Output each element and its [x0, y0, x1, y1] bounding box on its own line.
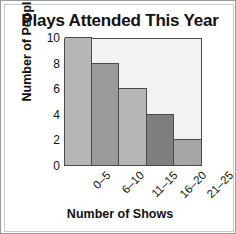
x-axis-tick-label: 0–5 [90, 169, 112, 191]
x-axis-tick-label: 16–20 [177, 169, 208, 200]
chart-title: Plays Attended This Year [5, 11, 235, 31]
y-axis-tick-label: 10 [40, 32, 60, 44]
y-axis-tick-label: 0 [40, 160, 60, 172]
y-axis-tick-label: 8 [40, 58, 60, 70]
y-axis-tick-label: 6 [40, 83, 60, 95]
x-axis-tick-label: 21–25 [205, 169, 236, 200]
y-axis-tick-labels: 0246810 [38, 38, 60, 166]
bar-series [65, 39, 201, 165]
plot-area [64, 38, 202, 166]
bar-cell [92, 39, 119, 165]
x-axis-tick-labels: 0–56–1011–1516–2021–25 [64, 167, 202, 211]
y-axis-tick-label: 4 [40, 109, 60, 121]
bar-cell [65, 39, 92, 165]
bar [119, 88, 146, 165]
y-axis-title: Number of People [20, 0, 34, 108]
bar [65, 37, 92, 165]
x-axis-title: Number of Shows [5, 207, 235, 221]
x-axis-tick-label: 11–15 [149, 169, 180, 200]
bar [147, 114, 174, 165]
bar-cell [119, 39, 146, 165]
bar [174, 139, 201, 165]
y-axis-tick-label: 2 [40, 134, 60, 146]
bar-cell [174, 39, 201, 165]
bar [92, 63, 119, 165]
chart-figure: Plays Attended This Year Number of Peopl… [0, 0, 236, 234]
chart-frame: Plays Attended This Year Number of Peopl… [4, 4, 234, 232]
bar-cell [147, 39, 174, 165]
x-axis-tick-label: 6–10 [120, 169, 147, 196]
